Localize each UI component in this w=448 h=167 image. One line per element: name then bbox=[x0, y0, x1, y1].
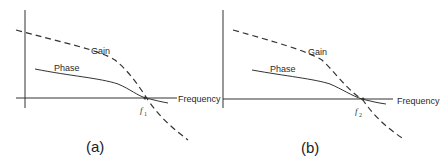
gain-label: Gain bbox=[91, 46, 110, 56]
x-axis-label: Frequency bbox=[397, 96, 440, 106]
panel-a: Gain Phase Frequency f 1 (a) bbox=[16, 10, 221, 155]
crossover-subscript: 2 bbox=[359, 112, 362, 118]
crossover-subscript: 1 bbox=[144, 111, 147, 117]
panel-caption: (b) bbox=[301, 139, 319, 156]
phase-label: Phase bbox=[270, 64, 296, 74]
gain-label: Gain bbox=[308, 47, 327, 57]
panel-b: Gain Phase Frequency f 2 (b) bbox=[223, 10, 440, 156]
phase-label: Phase bbox=[54, 63, 80, 73]
crossover-point bbox=[362, 98, 365, 101]
x-axis-label: Frequency bbox=[178, 94, 221, 104]
crossover-point bbox=[144, 97, 147, 100]
gain-phase-diagram: Gain Phase Frequency f 1 (a) Gain Phase … bbox=[0, 0, 448, 167]
panel-caption: (a) bbox=[86, 138, 104, 155]
